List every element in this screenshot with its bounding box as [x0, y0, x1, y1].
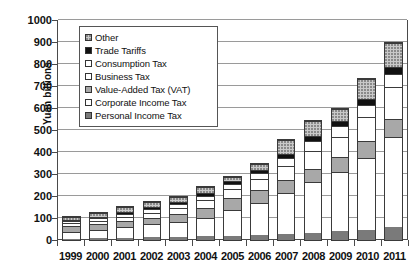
x-tick-label-1999: 1999 [57, 250, 84, 262]
legend-item-label: Consumption Tax [95, 58, 167, 69]
legend-item-corporate-income-tax[interactable]: Corporate Income Tax [85, 96, 212, 109]
segment-2004-corporate-income-tax[interactable] [197, 218, 214, 237]
legend-item-label: Personal Income Tax [95, 110, 182, 121]
legend-swatch-icon [85, 99, 92, 106]
bar-2009[interactable] [332, 109, 349, 240]
x-tick-mark-9 [300, 240, 301, 246]
segment-2006-value-added-tax-vat[interactable] [251, 190, 268, 203]
legend-swatch-icon [85, 47, 92, 54]
legend-item-personal-income-tax[interactable]: Personal Income Tax [85, 109, 212, 122]
y-tick-label-500: 500 [34, 124, 52, 136]
x-tick-mark-7 [246, 240, 247, 246]
segment-2007-other[interactable] [278, 140, 295, 154]
segment-2007-consumption-tax[interactable] [278, 158, 295, 166]
bar-2010[interactable] [358, 79, 375, 240]
legend-item-label: Value-Added Tax (VAT) [95, 84, 190, 95]
x-tick-label-2002: 2002 [138, 250, 165, 262]
bar-2005[interactable] [224, 177, 241, 240]
segment-2011-value-added-tax-vat[interactable] [385, 119, 402, 137]
segment-2011-business-tax[interactable] [385, 87, 402, 119]
legend-item-other[interactable]: Other [85, 31, 212, 44]
segment-2007-value-added-tax-vat[interactable] [278, 180, 295, 193]
segment-2008-other[interactable] [305, 121, 322, 136]
x-tick-mark-8 [273, 240, 274, 246]
legend-item-value-added-tax-vat[interactable]: Value-Added Tax (VAT) [85, 83, 212, 96]
bar-2011[interactable] [385, 43, 402, 240]
segment-2002-value-added-tax-vat[interactable] [144, 218, 161, 225]
segment-2011-corporate-income-tax[interactable] [385, 137, 402, 227]
segment-2009-personal-income-tax[interactable] [332, 231, 349, 240]
bar-2006[interactable] [251, 164, 268, 240]
segment-2009-business-tax[interactable] [332, 137, 349, 157]
segment-2009-corporate-income-tax[interactable] [332, 172, 349, 231]
legend-swatch-icon [85, 73, 92, 80]
bar-2004[interactable] [197, 187, 214, 240]
segment-2008-value-added-tax-vat[interactable] [305, 169, 322, 182]
legend-item-consumption-tax[interactable]: Consumption Tax [85, 57, 212, 70]
bar-slot-2005 [219, 20, 246, 240]
bar-2000[interactable] [90, 213, 107, 241]
legend-item-business-tax[interactable]: Business Tax [85, 70, 212, 83]
segment-2006-business-tax[interactable] [251, 179, 268, 190]
y-tick-label-900: 900 [34, 36, 52, 48]
bar-slot-2011 [380, 20, 407, 240]
segment-2007-corporate-income-tax[interactable] [278, 193, 295, 234]
segment-1999-corporate-income-tax[interactable] [63, 232, 80, 239]
y-tick-label-700: 700 [34, 80, 52, 92]
segment-2010-other[interactable] [358, 79, 375, 99]
segment-2007-business-tax[interactable] [278, 166, 295, 180]
segment-2003-corporate-income-tax[interactable] [170, 222, 187, 237]
x-tick-mark-11 [354, 240, 355, 246]
segment-2011-consumption-tax[interactable] [385, 74, 402, 87]
segment-2004-value-added-tax-vat[interactable] [197, 208, 214, 217]
segment-2001-corporate-income-tax[interactable] [117, 227, 134, 238]
segment-2004-business-tax[interactable] [197, 200, 214, 208]
bar-slot-2006 [246, 20, 273, 240]
x-tick-mark-2 [111, 240, 112, 246]
segment-2009-value-added-tax-vat[interactable] [332, 157, 349, 172]
bar-1999[interactable] [63, 217, 80, 240]
y-tick-label-400: 400 [34, 146, 52, 158]
y-tick-label-1000: 1000 [28, 14, 52, 26]
legend-swatch-icon [85, 34, 92, 41]
segment-2011-personal-income-tax[interactable] [385, 227, 402, 240]
bar-slot-2009 [326, 20, 353, 240]
segment-2010-consumption-tax[interactable] [358, 105, 375, 117]
segment-2005-corporate-income-tax[interactable] [224, 210, 241, 235]
segment-2006-corporate-income-tax[interactable] [251, 203, 268, 235]
x-tick-label-2004: 2004 [192, 250, 219, 262]
segment-2011-trade-tariffs[interactable] [385, 67, 402, 74]
bar-2002[interactable] [144, 202, 161, 240]
segment-2009-consumption-tax[interactable] [332, 126, 349, 137]
x-tick-label-2007: 2007 [273, 250, 300, 262]
legend-item-label: Trade Tariffs [95, 45, 146, 56]
segment-2008-personal-income-tax[interactable] [305, 233, 322, 240]
x-tick-label-2000: 2000 [84, 250, 111, 262]
segment-2010-personal-income-tax[interactable] [358, 230, 375, 240]
segment-2008-consumption-tax[interactable] [305, 141, 322, 151]
segment-2008-business-tax[interactable] [305, 151, 322, 169]
segment-2002-corporate-income-tax[interactable] [144, 224, 161, 237]
x-axis-tick-marks [57, 240, 408, 247]
bar-2008[interactable] [305, 121, 322, 240]
y-tick-label-800: 800 [34, 58, 52, 70]
bar-2007[interactable] [278, 140, 295, 240]
x-tick-label-2005: 2005 [219, 250, 246, 262]
legend-item-trade-tariffs[interactable]: Trade Tariffs [85, 44, 212, 57]
x-tick-label-2010: 2010 [354, 250, 381, 262]
segment-2005-value-added-tax-vat[interactable] [224, 198, 241, 210]
segment-2011-other[interactable] [385, 43, 402, 67]
segment-2010-value-added-tax-vat[interactable] [358, 141, 375, 159]
segment-2008-corporate-income-tax[interactable] [305, 182, 322, 233]
segment-2010-business-tax[interactable] [358, 117, 375, 141]
bar-2003[interactable] [170, 197, 187, 240]
segment-2003-value-added-tax-vat[interactable] [170, 214, 187, 222]
bar-2001[interactable] [117, 207, 134, 240]
x-tick-label-2006: 2006 [246, 250, 273, 262]
stacked-bar-chart: Yuan billions 01002003004005006007008009… [0, 0, 418, 276]
segment-2000-corporate-income-tax[interactable] [90, 230, 107, 239]
segment-2009-other[interactable] [332, 109, 349, 121]
x-tick-mark-10 [327, 240, 328, 246]
segment-2010-corporate-income-tax[interactable] [358, 158, 375, 230]
segment-2005-business-tax[interactable] [224, 189, 241, 198]
